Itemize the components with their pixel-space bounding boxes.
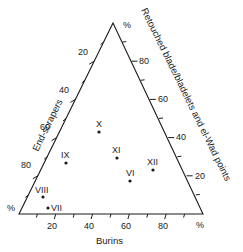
point-X [97,130,100,133]
bottom-axis-title: Burins [96,235,123,246]
left-tick-label: 20 [78,47,88,57]
point-label: X [96,119,102,129]
right-tick-label: 60 [158,94,168,104]
bottom-tick-label: 80 [158,221,168,231]
bottom-ticks [36,214,184,219]
point-IX [64,161,67,164]
point-label: VII [51,203,62,213]
point-label: VIII [35,185,49,195]
point-VIII [41,195,44,198]
point-XI [115,156,118,159]
point-VI [128,179,131,182]
left-tick-label: 40 [59,85,69,95]
point-label: XI [112,145,121,155]
point-label: IX [61,150,70,160]
point-label: VI [126,168,135,178]
ternary-diagram: 20 40 60 80 80 60 40 20 20 40 60 80 % % … [0,0,243,252]
corner-pct-top: % [123,20,131,30]
point-VII [46,206,49,209]
bottom-tick-label: 40 [84,221,94,231]
right-tick-label: 40 [176,132,186,142]
point-label: XII [147,157,158,167]
corner-pct-left: % [7,203,15,213]
bottom-tick-label: 20 [47,221,57,231]
left-axis-title: End-scrapers [30,97,65,153]
corner-pct-right: % [196,220,204,230]
data-points: X XI IX XII VI VIII VII [35,119,158,213]
right-tick-label: 20 [195,171,205,181]
left-tick-label: 80 [21,160,31,170]
point-XII [151,168,154,171]
bottom-tick-label: 60 [121,221,131,231]
right-tick-label: 80 [139,56,149,66]
